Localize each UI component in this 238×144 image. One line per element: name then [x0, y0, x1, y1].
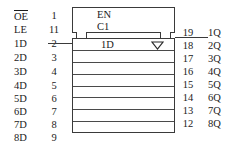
input-signal-label-3: 2D — [14, 52, 40, 63]
input-signal-label-1: LE — [14, 24, 40, 35]
latch-cell: 1D — [73, 39, 174, 51]
input-pin-number-3: 3 — [46, 52, 62, 63]
output-pin-number-2: 17 — [180, 53, 196, 64]
input-signal-label-2: 1D — [14, 38, 40, 49]
output-pin-number-4: 15 — [180, 79, 196, 90]
input-signal-label-4: 3D — [14, 66, 40, 77]
input-pin-number-0: 1 — [46, 10, 62, 21]
output-signal-label-3: 4Q — [208, 66, 234, 77]
logic-symbol-diagram: OE LE 1D 2D 3D 4D 5D 6D 7D 8D 1 11 2 3 4… — [0, 0, 238, 144]
latch-cell — [73, 110, 174, 122]
output-pin-number-7: 12 — [180, 118, 196, 129]
latch-cell — [73, 98, 174, 110]
output-pin-number-3: 16 — [180, 66, 196, 77]
input-signal-label-0: OE — [14, 10, 40, 22]
latch-cell — [73, 63, 174, 75]
output-signal-label-2: 3Q — [208, 53, 234, 64]
latch-cell — [73, 51, 174, 63]
output-pin-number-1: 18 — [180, 40, 196, 51]
output-signal-label-7: 8Q — [208, 118, 234, 129]
output-signal-label-5: 6Q — [208, 92, 234, 103]
output-pin-number-0: 19 — [180, 27, 196, 38]
input-pin-number-7: 7 — [46, 106, 62, 117]
output-signal-label-0: 1Q — [208, 27, 234, 38]
control-block-enable-label: EN — [97, 9, 111, 20]
latch-cell-label: 1D — [101, 39, 114, 50]
output-signal-label-4: 5Q — [208, 79, 234, 90]
output-pin-number-6: 13 — [180, 105, 196, 116]
latch-cell — [73, 75, 174, 87]
output-pin-number-5: 14 — [180, 92, 196, 103]
input-lead-1d — [48, 43, 73, 44]
input-pin-number-1: 11 — [46, 24, 62, 35]
overbar-wrapper: OE — [14, 10, 28, 22]
latch-cell-array: 1D — [72, 38, 175, 133]
input-pin-number-8: 8 — [46, 119, 62, 130]
latch-cell — [73, 122, 174, 134]
control-block-control-label: C1 — [97, 21, 109, 32]
input-pin-number-6: 6 — [46, 93, 62, 104]
input-signal-label-5: 4D — [14, 80, 40, 91]
output-signal-label-6: 7Q — [208, 105, 234, 116]
input-pin-number-5: 5 — [46, 80, 62, 91]
input-signal-label-8: 7D — [14, 119, 40, 130]
input-signal-label-9: 8D — [14, 132, 40, 143]
input-signal-label-7: 6D — [14, 106, 40, 117]
output-signal-label-1: 2Q — [208, 40, 234, 51]
input-pin-number-9: 9 — [46, 132, 62, 143]
control-block — [72, 7, 175, 33]
input-signal-label-6: 5D — [14, 93, 40, 104]
input-pin-number-4: 4 — [46, 66, 62, 77]
latch-cell — [73, 87, 174, 99]
